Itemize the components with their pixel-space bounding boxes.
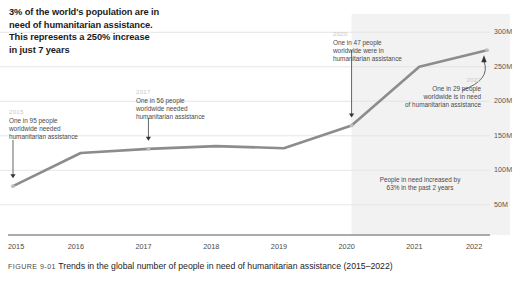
y-tick-label-250M: 250M <box>494 63 512 71</box>
annotation-2017: 2017 One in 56 people worldwide needed h… <box>136 88 205 121</box>
figure-caption-text: Trends in the global number of people in… <box>58 261 392 271</box>
annotation-2017-line-3: humanitarian assistance <box>136 113 205 121</box>
headline-line-4: in just 7 years <box>9 44 224 57</box>
y-tick-label-100M: 100M <box>494 166 512 174</box>
annotation-2022-line-3: of humanitarian assistance <box>367 101 481 109</box>
y-tick-label-50M: 50M <box>494 201 508 209</box>
annotation-2015-year: 2015 <box>9 108 78 116</box>
annotation-2017-line-2: worldwide needed <box>136 105 205 113</box>
x-tick-label-2019: 2019 <box>271 242 287 251</box>
annotation-2022-line-2: worldwide is in need <box>367 93 481 101</box>
x-tick-label-2016: 2016 <box>68 242 84 251</box>
annotation-2015: 2015 One in 95 people worldwide needed h… <box>9 108 78 141</box>
headline-line-2: need of humanitarian assistance. <box>9 19 224 32</box>
annotation-2022-year: 2022 <box>367 76 481 84</box>
annotation-2015-line-1: One in 95 people <box>9 117 78 125</box>
callout-line-2: 63% in the past 2 years <box>357 184 483 192</box>
annotation-2022: 2022 One in 29 people worldwide is in ne… <box>367 76 481 109</box>
annotation-2022-line-1: One in 29 people <box>367 85 481 93</box>
annotation-2020-year: 2020 <box>333 30 402 38</box>
annotation-2017-text: One in 56 people worldwide needed humani… <box>136 97 205 121</box>
x-tick-label-2021: 2021 <box>406 242 422 251</box>
x-tick-label-2020: 2020 <box>339 242 355 251</box>
x-tick-label-2022: 2022 <box>466 242 482 251</box>
callout-line-1: People in need increased by <box>357 176 483 184</box>
headline-line-1: 3% of the world's population are in <box>9 6 224 19</box>
figure-container: 3% of the world's population are in need… <box>0 0 530 281</box>
callout-increase: People in need increased by 63% in the p… <box>357 176 483 193</box>
annotation-2015-line-3: humanitarian assistance <box>9 133 78 141</box>
y-tick-label-150M: 150M <box>494 132 512 140</box>
annotation-2017-line-1: One in 56 people <box>136 97 205 105</box>
y-tick-label-200M: 200M <box>494 97 512 105</box>
x-tick-label-2018: 2018 <box>203 242 219 251</box>
y-tick-label-300M: 300M <box>494 28 512 36</box>
annotation-2020-line-1: One in 47 people <box>333 39 402 47</box>
x-tick-label-2017: 2017 <box>135 242 151 251</box>
annotation-2015-line-2: worldwide needed <box>9 125 78 133</box>
x-tick-label-2015: 2015 <box>8 242 24 251</box>
annotation-2017-year: 2017 <box>136 88 205 96</box>
annotation-2020-line-2: worldwide were in <box>333 47 402 55</box>
headline-line-3: This represents a 250% increase <box>9 31 224 44</box>
annotation-2020-line-3: humanitarian assistance <box>333 55 402 63</box>
annotation-2015-text: One in 95 people worldwide needed humani… <box>9 117 78 141</box>
annotation-2022-text: One in 29 people worldwide is in need of… <box>367 85 481 109</box>
annotation-2020: 2020 One in 47 people worldwide were in … <box>333 30 402 63</box>
page-title: 3% of the world's population are in need… <box>9 6 224 56</box>
figure-number: FIGURE 9-01 <box>8 263 56 271</box>
annotation-2020-text: One in 47 people worldwide were in human… <box>333 39 402 63</box>
figure-caption: FIGURE 9-01 Trends in the global number … <box>8 261 524 271</box>
